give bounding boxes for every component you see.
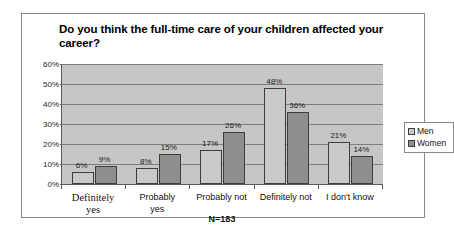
legend-swatch-women-icon [408,140,415,147]
legend-label-women: Women [417,138,446,148]
bar-value-label: 21% [330,131,346,140]
y-axis: 0%10%20%30%40%50%60% [27,64,59,185]
gridline [62,124,383,125]
chart-frame: Do you think the full-time care of your … [21,13,425,218]
x-axis-ticks [61,185,383,190]
legend-swatch-men-icon [408,128,415,135]
gridline [62,104,383,105]
sample-size-annotation: N=183 [187,214,257,224]
x-axis-category-label-1: Probably yes [125,192,189,215]
y-axis-tick-label: 0% [31,180,59,189]
bar-value-label: 17% [202,139,218,148]
bar-women-2[interactable] [223,132,245,184]
bar-value-label: 9% [99,155,111,164]
legend-item-women[interactable]: Women [408,138,450,148]
y-axis-tick-label: 60% [31,60,59,69]
bar-value-label: 36% [289,101,305,110]
bar-women-3[interactable] [287,112,309,184]
legend-item-men[interactable]: Men [408,126,450,136]
bar-value-label: 6% [76,161,88,170]
bar-value-label: 15% [161,143,177,152]
x-axis-category-label-3: Definitely not [254,192,318,204]
bar-value-label: 48% [266,77,282,86]
x-axis-separator [254,185,255,189]
x-axis-category-label-0: Definitely yes [61,192,125,215]
y-axis-tick-label: 30% [31,120,59,129]
legend-label-men: Men [417,126,434,136]
x-axis-separator [61,185,62,189]
bar-value-label: 8% [140,157,152,166]
chart-title: Do you think the full-time care of your … [59,22,404,50]
bar-men-3[interactable] [264,88,286,184]
y-axis-tick-label: 40% [31,100,59,109]
x-axis-separator [382,185,383,189]
bar-value-label: 14% [353,145,369,154]
bar-value-label: 26% [225,121,241,130]
y-axis-tick-label: 20% [31,140,59,149]
bar-men-1[interactable] [136,168,158,184]
x-axis-category-label-4: I don't know [318,192,382,204]
y-axis-tick-label: 10% [31,160,59,169]
bar-men-2[interactable] [200,150,222,184]
bar-women-1[interactable] [159,154,181,184]
plot-area [61,64,383,185]
bar-men-0[interactable] [72,172,94,184]
gridline [62,64,383,65]
bar-women-0[interactable] [95,166,117,184]
chart-legend: Men Women [404,122,454,153]
gridline [62,84,383,85]
x-axis-category-label-2: Probably not [189,192,253,204]
bar-women-4[interactable] [351,156,373,184]
x-axis-separator [318,185,319,189]
x-axis-separator [125,185,126,189]
x-axis-separator [189,185,190,189]
y-axis-tick-label: 50% [31,80,59,89]
bar-men-4[interactable] [328,142,350,184]
